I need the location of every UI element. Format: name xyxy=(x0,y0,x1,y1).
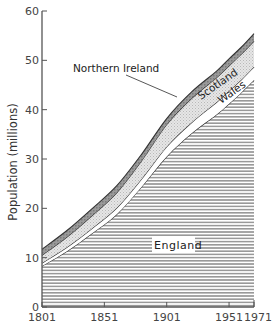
x-tick-label: 1951 xyxy=(215,311,243,324)
leader-line-northern-ireland xyxy=(126,75,177,97)
y-tick-label: 40 xyxy=(25,104,39,117)
y-tick-label: 20 xyxy=(25,202,39,215)
y-axis-title: Population (millions) xyxy=(6,103,20,220)
population-chart: 0102030405060 18011851190119511971 Popul… xyxy=(0,0,272,332)
y-tick-label: 30 xyxy=(25,153,39,166)
x-tick-label: 1851 xyxy=(90,311,118,324)
area-england xyxy=(42,80,254,307)
y-tick-label: 60 xyxy=(25,5,39,18)
label-england: England xyxy=(154,239,202,252)
label-northern-ireland: Northern Ireland xyxy=(73,62,159,74)
y-tick-label: 50 xyxy=(25,54,39,67)
x-tick-label: 1801 xyxy=(28,311,56,324)
y-tick-label: 10 xyxy=(25,252,39,265)
x-tick-label: 1901 xyxy=(153,311,181,324)
x-tick-label: 1971 xyxy=(244,311,272,324)
